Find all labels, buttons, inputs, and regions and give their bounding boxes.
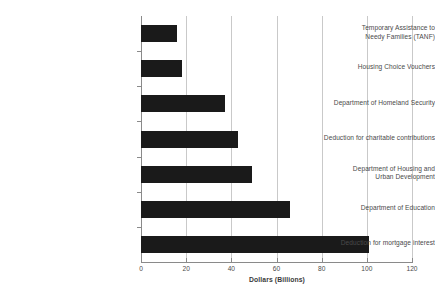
category-label-line: Deduction for mortgage interest	[303, 239, 435, 248]
category-label-line: Department of Homeland Security	[303, 99, 435, 108]
x-axis-title: Dollars (Billions)	[141, 276, 413, 283]
y-axis-tick	[137, 86, 141, 87]
category-label-line: Deduction for charitable contributions	[303, 134, 435, 143]
category-label: Deduction for mortgage interest	[303, 239, 435, 248]
x-axis-tick	[141, 258, 142, 263]
gridline	[277, 16, 278, 262]
category-label-line: Urban Development	[303, 173, 435, 182]
x-axis-tick-label: 100	[352, 265, 382, 272]
category-label-line: Temporary Assistance to	[303, 24, 435, 33]
x-axis-tick-label: 60	[262, 265, 292, 272]
bar-chart-figure: Dollars (Billions) 020406080100120Tempor…	[0, 0, 435, 298]
x-axis-tick	[186, 258, 187, 263]
category-label: Temporary Assistance toNeedy Families (T…	[303, 24, 435, 41]
category-label-line: Needy Families (TANF)	[303, 33, 435, 42]
category-label: Department of Homeland Security	[303, 99, 435, 108]
bar	[141, 95, 225, 112]
category-label: Deduction for charitable contributions	[303, 134, 435, 143]
bar	[141, 166, 252, 183]
y-axis-tick	[137, 157, 141, 158]
y-axis-tick	[137, 192, 141, 193]
category-label-line: Department of Education	[303, 204, 435, 213]
bar	[141, 201, 290, 218]
y-axis-tick	[137, 227, 141, 228]
x-axis-tick-label: 0	[126, 265, 156, 272]
category-label: Housing Choice Vouchers	[303, 63, 435, 72]
x-axis-tick	[277, 258, 278, 263]
x-axis-tick-label: 40	[216, 265, 246, 272]
category-label: Department of Housing andUrban Developme…	[303, 165, 435, 182]
x-axis-tick-label: 80	[307, 265, 337, 272]
x-axis-tick	[322, 258, 323, 263]
x-axis-tick-label: 120	[397, 265, 427, 272]
y-axis-tick	[137, 51, 141, 52]
category-label: Department of Education	[303, 204, 435, 213]
bar	[141, 60, 182, 77]
bar	[141, 25, 177, 42]
x-axis-tick	[367, 258, 368, 263]
category-label-line: Housing Choice Vouchers	[303, 63, 435, 72]
bar	[141, 131, 238, 148]
x-axis-tick	[231, 258, 232, 263]
x-axis-tick-label: 20	[171, 265, 201, 272]
x-axis-tick	[412, 258, 413, 263]
y-axis-tick	[137, 121, 141, 122]
category-label-line: Department of Housing and	[303, 165, 435, 174]
